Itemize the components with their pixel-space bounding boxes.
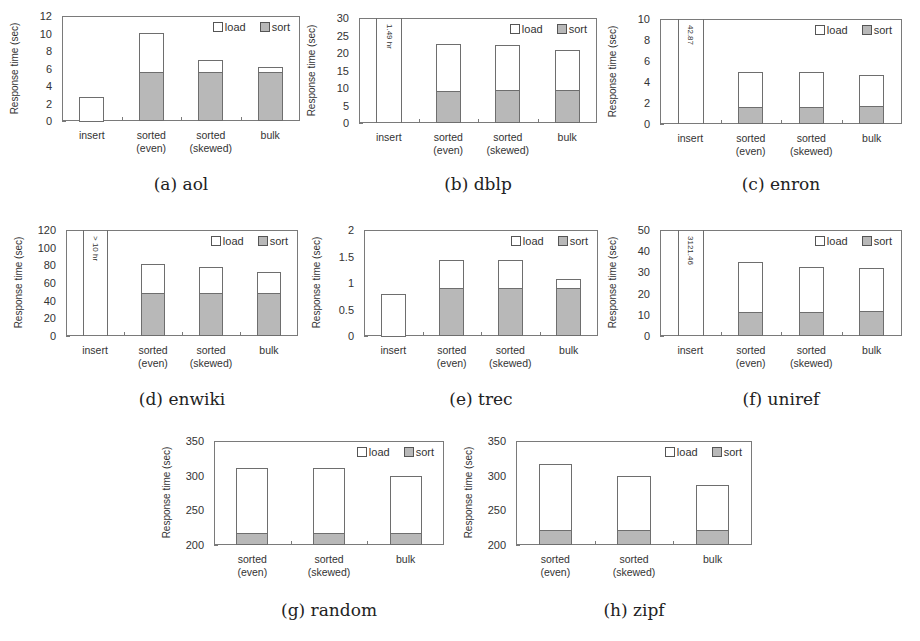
chart-b: Response time (sec)0510152025301.49 hrin… — [300, 0, 610, 210]
bar-load — [859, 268, 884, 312]
legend-item-sort: sort — [260, 21, 290, 33]
chart-caption: (d) enwiki — [66, 389, 298, 409]
y-tick-label: 350 — [476, 435, 506, 447]
legend-swatch-load — [213, 22, 223, 32]
chart-caption: (a) aol — [62, 174, 300, 194]
y-tick-label: 200 — [476, 539, 506, 551]
x-tick-mark — [721, 120, 722, 124]
x-category-label: sorted(even) — [520, 553, 590, 579]
x-tick-mark — [124, 332, 125, 336]
bar-load — [859, 75, 884, 108]
bar-load — [79, 97, 104, 123]
y-tick-label: 15 — [319, 65, 349, 77]
y-tick-label: 6 — [22, 63, 52, 75]
y-tick-mark — [66, 336, 70, 337]
bar-load — [141, 264, 165, 294]
x-tick-mark — [673, 541, 674, 545]
legend-label: sort — [874, 24, 892, 36]
x-category-line: insert — [655, 132, 725, 145]
bar-sort — [799, 107, 824, 124]
bar-load — [139, 33, 164, 73]
chart-g: Response time (sec)200250300350sorted(ev… — [150, 430, 460, 640]
x-category-line: (even) — [217, 566, 287, 579]
bar-sort — [257, 293, 281, 336]
y-tick-label: 40 — [620, 245, 650, 257]
x-tick-mark — [842, 120, 843, 124]
bar-sort — [498, 288, 523, 336]
legend: loadsort — [815, 235, 892, 247]
legend-item-load: load — [815, 235, 848, 247]
y-tick-label: 80 — [26, 259, 56, 271]
bar-load — [555, 50, 580, 91]
legend-item-sort: sort — [862, 235, 892, 247]
legend-swatch-load — [815, 236, 825, 246]
y-tick-label: 300 — [476, 470, 506, 482]
x-category-label: sorted(skewed) — [599, 553, 669, 579]
y-tick-label: 250 — [174, 504, 204, 516]
legend-label: sort — [874, 235, 892, 247]
x-category-label: sorted(even) — [716, 132, 786, 158]
y-tick-label: 5 — [319, 100, 349, 112]
x-tick-mark — [842, 332, 843, 336]
bar-sort — [617, 530, 650, 545]
x-category-line: bulk — [837, 132, 907, 145]
bar-load — [257, 272, 281, 293]
legend-item-sort: sort — [258, 235, 288, 247]
legend-swatch-sort — [258, 236, 268, 246]
x-category-line: (skewed) — [176, 142, 246, 155]
legend: loadsort — [211, 235, 288, 247]
x-category-label: sorted(even) — [217, 553, 287, 579]
y-tick-label: 10 — [22, 28, 52, 40]
x-tick-mark — [241, 117, 242, 121]
bar-load — [198, 60, 223, 73]
y-tick-label: 0 — [319, 117, 349, 129]
bar-sort — [738, 312, 763, 336]
x-category-label: bulk — [837, 132, 907, 145]
chart-caption: (f) uniref — [660, 389, 902, 409]
legend-item-load: load — [357, 446, 390, 458]
legend: loadsort — [815, 24, 892, 36]
x-category-line: (even) — [520, 566, 590, 579]
y-tick-label: 0 — [324, 330, 354, 342]
legend-label: load — [827, 235, 848, 247]
x-tick-mark — [240, 332, 241, 336]
y-tick-label: 20 — [319, 47, 349, 59]
x-category-label: bulk — [837, 344, 907, 357]
legend: loadsort — [213, 21, 290, 33]
y-axis-label: Response time (sec) — [306, 15, 317, 125]
y-tick-label: 0 — [26, 330, 56, 342]
bar-sort — [199, 293, 223, 336]
legend-swatch-sort — [558, 236, 568, 246]
bar-sort — [495, 90, 520, 123]
legend-item-sort: sort — [404, 446, 434, 458]
x-category-label: bulk — [235, 129, 305, 142]
bar-sort — [738, 107, 763, 124]
x-tick-mark — [538, 119, 539, 123]
x-tick-mark — [423, 332, 424, 336]
x-category-label: sorted(skewed) — [776, 132, 846, 158]
y-tick-mark — [359, 123, 363, 124]
x-category-line: (skewed) — [176, 357, 246, 370]
x-category-line: bulk — [235, 129, 305, 142]
x-category-label: bulk — [534, 344, 604, 357]
legend-item-sort: sort — [862, 24, 892, 36]
y-tick-label: 0.5 — [324, 304, 354, 316]
chart-h: Response time (sec)200250300350sorted(ev… — [450, 430, 760, 640]
y-axis-label: Response time (sec) — [607, 16, 618, 126]
x-category-line: (skewed) — [475, 357, 545, 370]
x-category-line: sorted — [776, 132, 846, 145]
y-tick-mark — [364, 336, 368, 337]
bar-load — [498, 260, 523, 289]
y-tick-label: 20 — [620, 288, 650, 300]
x-category-line: bulk — [234, 344, 304, 357]
bar-sort — [556, 288, 581, 336]
x-tick-mark — [478, 119, 479, 123]
bar-load — [381, 294, 406, 337]
bar-load — [539, 464, 572, 531]
overflow-bar-edge — [678, 19, 679, 124]
x-category-line: (even) — [716, 145, 786, 158]
y-axis-label: Response time (sec) — [607, 228, 618, 338]
y-tick-label: 25 — [319, 30, 349, 42]
legend-label: load — [677, 446, 698, 458]
x-category-label: sorted(skewed) — [776, 344, 846, 370]
